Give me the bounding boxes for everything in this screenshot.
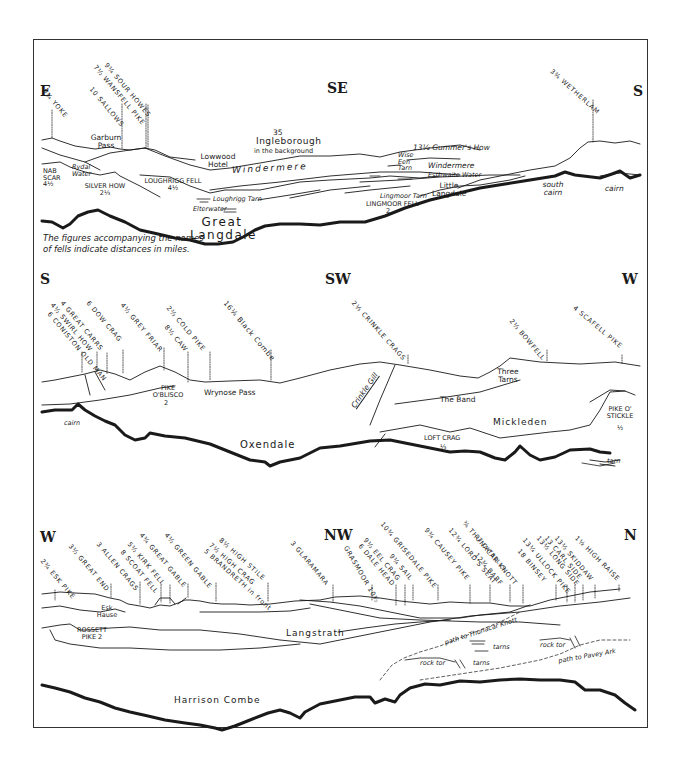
- place-loughrigg-tarn: Loughrigg Tarn: [213, 196, 262, 203]
- place-rydal-water: Rydal Water: [72, 164, 100, 177]
- compass-nw: NW: [324, 528, 353, 542]
- place-garburn-pass: Garburn Pass: [88, 134, 124, 149]
- place-ingleborough: Ingleborough: [256, 137, 321, 146]
- place-south-cairn: south cairn: [538, 181, 568, 196]
- place-langstrath: Langstrath: [286, 629, 345, 638]
- place-windermere-2: Windermere: [428, 162, 474, 170]
- place-the-band: The Band: [440, 396, 476, 404]
- place-silver-how: SILVER HOW 2⅓: [82, 183, 128, 196]
- compass-sw: SW: [325, 272, 351, 286]
- panel-2-skylines: [42, 358, 640, 466]
- place-pike-ostickle: PIKE O' STICKLE: [603, 406, 637, 419]
- place-cairn-2: cairn: [64, 420, 80, 427]
- place-wise-een-tarn: Wise Een Tarn: [398, 152, 426, 172]
- place-esk-hause: Esk Hause: [92, 605, 122, 618]
- panel-3-leaders: [55, 582, 619, 605]
- panel-3-foreground-ridge: [42, 679, 635, 730]
- place-three-tarns: Three Tarns: [493, 368, 523, 383]
- distance-note: The figures accompanying the names of fe…: [43, 233, 213, 254]
- place-gummers-how: 13½ Gummer's How: [413, 144, 490, 152]
- place-pike-ostickle-dist: ½: [617, 425, 623, 432]
- place-loft-crag-dist: ⅓: [440, 444, 446, 451]
- place-elterwater: Elterwater: [193, 206, 227, 213]
- place-cairn: cairn: [605, 185, 624, 193]
- place-tarns-1: tarns: [493, 644, 510, 651]
- place-tarns-2: tarns: [473, 660, 490, 667]
- place-rock-tor-1: rock tor: [540, 642, 565, 649]
- compass-w: W: [622, 272, 638, 286]
- place-rossett-pike: ROSSETT PIKE 2: [72, 627, 112, 640]
- place-wrynose-pass: Wrynose Pass: [204, 389, 255, 397]
- compass-s: S: [633, 84, 643, 98]
- place-ingleborough-note: in the background: [254, 148, 313, 155]
- place-oxendale: Oxendale: [240, 440, 295, 450]
- place-pike-oblisco: PIKE O'BLISCO: [150, 385, 186, 398]
- compass-w-2: W: [40, 530, 56, 544]
- place-nab-scar: NAB SCAR 4½: [43, 168, 71, 188]
- compass-se: SE: [327, 81, 348, 95]
- place-harrison-combe: Harrison Combe: [174, 696, 261, 705]
- place-loft-crag: LOFT CRAG: [424, 435, 460, 442]
- place-tarn: tarn: [607, 458, 620, 465]
- place-pike-oblisco-dist: 2: [164, 400, 168, 407]
- place-little-langdale: Little Langdale: [432, 182, 466, 197]
- place-lingmoor-tarn: Lingmoor Tarn: [380, 193, 427, 200]
- compass-n: N: [624, 528, 637, 542]
- place-lingmoor-dist: 2: [386, 208, 390, 215]
- place-loughrigg-fell: LOUGHRIGG FELL 4½: [143, 178, 203, 191]
- place-rock-tor-2: rock tor: [420, 660, 445, 667]
- place-mickleden: Mickleden: [493, 418, 547, 427]
- place-lowwood-hotel: Lowwood Hotel: [200, 153, 236, 168]
- compass-s-2: S: [40, 272, 50, 286]
- place-esthwaite-water: Esthwaite Water: [428, 172, 481, 179]
- place-lingmoor-fell: LINGMOOR FELL: [366, 201, 419, 208]
